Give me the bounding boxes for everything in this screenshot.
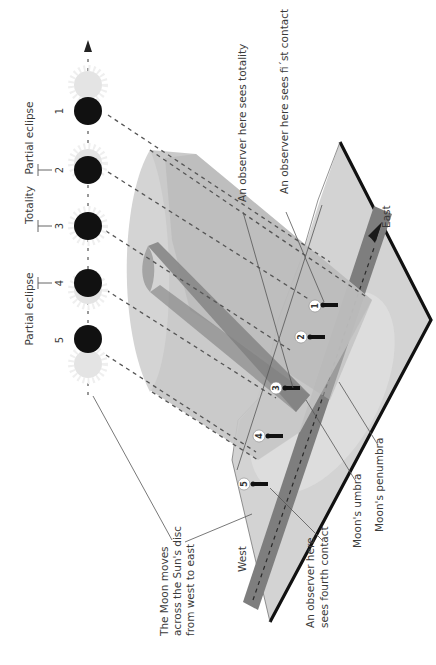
stage-number-5: 5 <box>54 337 65 343</box>
person-head-icon-3 <box>283 386 288 391</box>
sun-moon-sequence <box>71 40 105 395</box>
phase-label-partial-1: Partial eclipse <box>23 102 35 175</box>
direction-west: West <box>236 546 248 572</box>
observer-badge-label-4: 4 <box>255 433 264 439</box>
leader-moon-moves-top <box>93 396 172 540</box>
moon-icon-1 <box>74 97 102 125</box>
callout-first-contact: An observer here sees fi´st contact <box>278 9 290 194</box>
direction-east: East <box>380 205 392 228</box>
person-head-icon-4 <box>266 434 271 439</box>
phase-label-partial-2: Partial eclipse <box>23 273 35 346</box>
stage-number-2: 2 <box>54 167 65 173</box>
observer-badge-label-3: 3 <box>272 385 281 391</box>
callout-totality: An observer here sees totality <box>236 44 248 202</box>
observer-badge-label-1: 1 <box>311 303 320 309</box>
callout-fourth-contact-line2: sees fourth contact <box>318 526 330 628</box>
observer-badge-label-5: 5 <box>240 481 249 487</box>
moon-icon-4 <box>74 269 102 297</box>
callout-penumbra: Moon's penumbra <box>373 438 385 532</box>
person-head-icon-2 <box>308 335 313 340</box>
callout-umbra: Moon's umbra <box>351 473 363 548</box>
eclipse-diagram: 1 2 3 4 5 Partial eclipse Totality Parti… <box>0 0 436 665</box>
leader-moon-moves-track <box>185 514 252 542</box>
moon-icon-2 <box>74 156 102 184</box>
stage-number-1: 1 <box>54 108 65 114</box>
stage-number-4: 4 <box>54 280 65 286</box>
sequence-arrow-icon <box>84 40 92 52</box>
phase-label-totality: Totality <box>23 186 35 225</box>
person-head-icon-5 <box>251 482 256 487</box>
stage-number-3: 3 <box>54 223 65 229</box>
phase-labels: Partial eclipse Totality Partial eclipse <box>23 102 35 346</box>
callout-moon-moves-line3: from west to east <box>184 544 196 636</box>
moon-icon-5 <box>74 325 102 353</box>
observer-badge-label-2: 2 <box>297 334 306 340</box>
sun-disc-1 <box>74 71 102 99</box>
callout-fourth-contact-line1: An observer here <box>304 537 316 628</box>
stage-numbers: 1 2 3 4 5 <box>38 108 65 343</box>
moon-icon-3 <box>74 212 102 240</box>
person-head-icon-1 <box>321 303 326 308</box>
sun-disc-5 <box>74 350 102 378</box>
callout-moon-moves-line2: across the Sun's disc <box>171 526 183 636</box>
callout-moon-moves-line1: The Moon moves <box>158 546 170 637</box>
